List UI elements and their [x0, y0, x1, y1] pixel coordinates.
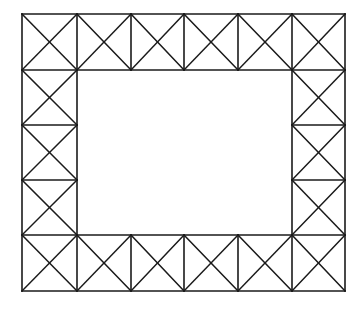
truss-frame-figure — [0, 0, 362, 309]
truss-frame-svg — [0, 0, 362, 309]
